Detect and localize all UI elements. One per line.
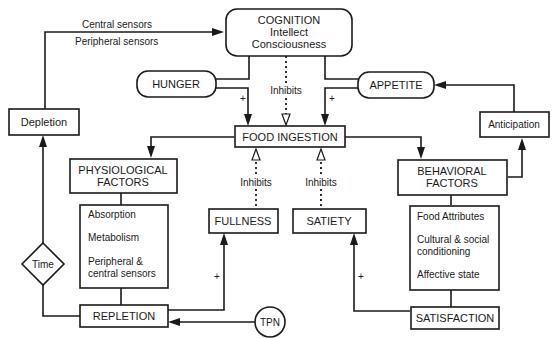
label-inhibits-fullness: Inhibits bbox=[240, 177, 272, 188]
fullness-label: FULLNESS bbox=[215, 215, 272, 227]
edge-anticipation-to-appetite bbox=[434, 81, 514, 112]
node-depletion[interactable]: Depletion bbox=[9, 109, 79, 135]
label-central-sensors: Central sensors bbox=[82, 19, 152, 30]
node-satiety[interactable]: SATIETY bbox=[293, 209, 366, 233]
node-satisfaction[interactable]: SATISFACTION bbox=[411, 307, 499, 329]
satiety-label: SATIETY bbox=[306, 215, 352, 227]
edge-hunger-to-food-ingestion bbox=[216, 88, 252, 126]
edge-appetite-to-food-ingestion bbox=[321, 88, 358, 126]
physiological-line2: FACTORS bbox=[97, 176, 149, 188]
tpn-label: TPN bbox=[260, 317, 280, 328]
cognition-intellect: Intellect bbox=[270, 26, 308, 38]
satisfaction-label: SATISFACTION bbox=[416, 312, 495, 324]
detail-central-sensors: central sensors bbox=[88, 268, 156, 279]
label-inhibits-satiety: Inhibits bbox=[305, 177, 337, 188]
detail-metabolism: Metabolism bbox=[88, 232, 139, 243]
node-behavioral-factors[interactable]: BEHAVIORAL FACTORS bbox=[398, 160, 507, 195]
node-time[interactable]: Time bbox=[22, 243, 64, 285]
repletion-label: REPLETION bbox=[93, 310, 155, 322]
edge-food-ingestion-to-behavioral bbox=[345, 137, 425, 159]
node-physiological-factors[interactable]: PHYSIOLOGICAL FACTORS bbox=[70, 159, 177, 193]
node-hunger[interactable]: HUNGER bbox=[137, 71, 216, 97]
time-label: Time bbox=[32, 259, 54, 270]
food-ingestion-label: FOOD INGESTION bbox=[242, 131, 337, 143]
cognition-consciousness: Consciousness bbox=[252, 38, 327, 50]
appetite-label: APPETITE bbox=[369, 79, 422, 91]
node-fullness[interactable]: FULLNESS bbox=[209, 209, 278, 233]
node-food-ingestion[interactable]: FOOD INGESTION bbox=[235, 126, 345, 147]
label-plus-hunger: + bbox=[240, 93, 246, 104]
edge-tpn-to-repletion bbox=[168, 318, 255, 326]
edge-cognition-to-appetite bbox=[325, 56, 358, 79]
label-plus-appetite: + bbox=[329, 93, 335, 104]
behavioral-line1: BEHAVIORAL bbox=[417, 165, 487, 177]
node-cognition[interactable]: COGNITION Intellect Consciousness bbox=[226, 9, 352, 56]
node-physiological-details[interactable]: Absorption Metabolism Peripheral & centr… bbox=[80, 205, 168, 288]
label-plus-repletion: + bbox=[214, 271, 220, 282]
detail-peripheral: Peripheral & bbox=[88, 256, 143, 267]
detail-absorption: Absorption bbox=[88, 209, 136, 220]
edge-behavioral-to-anticipation bbox=[508, 138, 526, 177]
edge-time-to-depletion bbox=[39, 135, 47, 243]
label-inhibits-cognition: Inhibits bbox=[270, 85, 302, 96]
hunger-label: HUNGER bbox=[152, 78, 200, 90]
detail-cultural-social: Cultural & social bbox=[417, 234, 489, 245]
detail-food-attributes: Food Attributes bbox=[417, 211, 484, 222]
edge-cognition-to-hunger bbox=[216, 56, 249, 79]
food-intake-diagram: COGNITION Intellect Consciousness HUNGER… bbox=[0, 0, 553, 338]
physiological-line1: PHYSIOLOGICAL bbox=[78, 164, 167, 176]
edge-food-ingestion-to-physiological bbox=[147, 137, 234, 158]
node-appetite[interactable]: APPETITE bbox=[358, 72, 434, 98]
label-peripheral-sensors: Peripheral sensors bbox=[75, 36, 158, 47]
anticipation-label: Anticipation bbox=[488, 119, 540, 130]
detail-conditioning: conditioning bbox=[417, 246, 470, 257]
node-behavioral-details[interactable]: Food Attributes Cultural & social condit… bbox=[410, 206, 499, 290]
edge-repletion-to-time bbox=[43, 285, 80, 316]
node-repletion[interactable]: REPLETION bbox=[80, 305, 168, 327]
detail-affective-state: Affective state bbox=[417, 269, 480, 280]
node-tpn[interactable]: TPN bbox=[255, 307, 285, 337]
label-plus-satisfaction: + bbox=[358, 271, 364, 282]
depletion-label: Depletion bbox=[21, 116, 67, 128]
cognition-title: COGNITION bbox=[258, 14, 320, 26]
behavioral-line2: FACTORS bbox=[426, 177, 478, 189]
node-anticipation[interactable]: Anticipation bbox=[480, 112, 549, 137]
